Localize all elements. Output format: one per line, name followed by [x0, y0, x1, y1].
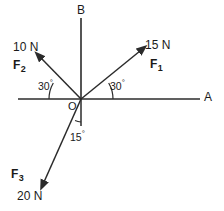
- force-label-f2-letter: F: [13, 58, 20, 72]
- angle-label-bottom-15: 15°: [70, 130, 85, 142]
- vector-diagram-canvas: [0, 0, 224, 211]
- force-label-f1: F1: [150, 58, 163, 73]
- magnitude-label-f3: 20 N: [17, 190, 42, 202]
- magnitude-label-f2: 10 N: [13, 41, 38, 53]
- force-label-f3: F3: [11, 168, 24, 183]
- force-label-f2: F2: [13, 59, 26, 74]
- angle-value-bottom: 15: [70, 131, 82, 143]
- angle-arc-bottom-15: [75, 120, 81, 122]
- angle-value-right: 30: [110, 80, 122, 92]
- magnitude-label-f1: 15 N: [145, 39, 170, 51]
- force-label-f2-subscript: 2: [21, 64, 26, 74]
- degree-symbol-bottom: °: [82, 129, 85, 138]
- origin-label-o: O: [68, 101, 77, 112]
- degree-symbol-right: °: [122, 78, 125, 87]
- force-label-f3-subscript: 3: [19, 173, 24, 183]
- force-label-f3-letter: F: [11, 167, 18, 181]
- vector-f1-arrow: [81, 51, 140, 99]
- angle-label-left-30: 30°: [38, 79, 53, 91]
- force-label-f1-subscript: 1: [158, 63, 163, 73]
- axis-label-a: A: [204, 91, 212, 103]
- axis-label-b: B: [77, 4, 85, 16]
- angle-label-right-30: 30°: [110, 79, 125, 91]
- force-label-f1-letter: F: [150, 57, 157, 71]
- degree-symbol-left: °: [50, 78, 53, 87]
- angle-value-left: 30: [38, 80, 50, 92]
- force-vector-diagram: B A O 15 N F1 10 N F2 F3 20 N 30° 30° 15…: [0, 0, 224, 211]
